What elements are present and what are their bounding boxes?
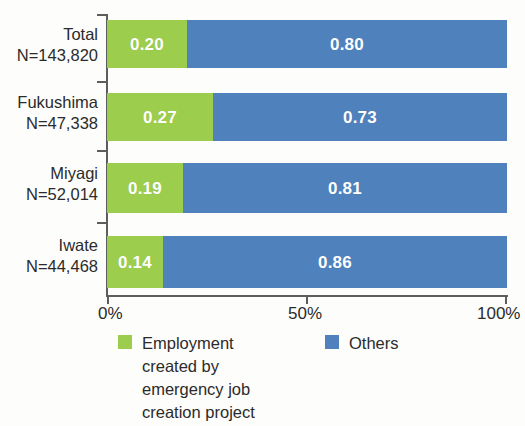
y-axis-category-label-1: Fukushima N=47,338 — [0, 92, 98, 134]
category-name: Total — [0, 24, 98, 45]
category-name: Fukushima — [0, 92, 98, 113]
legend-swatch-green-icon — [118, 335, 132, 349]
bar-value-label: 0.80 — [330, 36, 364, 53]
x-axis-tick — [306, 295, 308, 304]
category-name: Miyagi — [0, 163, 98, 184]
x-axis-tick-label-100: 100% — [477, 304, 520, 324]
legend-label-others: Others — [349, 332, 399, 355]
legend-label-line: created by — [142, 355, 255, 378]
y-axis-tick — [97, 81, 108, 83]
x-axis-tick-label-0: 0% — [98, 304, 123, 324]
bar-row-miyagi: 0.19 0.81 — [107, 163, 507, 213]
y-axis-category-label-3: Iwate N=44,468 — [0, 235, 98, 277]
bar-value-label: 0.73 — [343, 109, 377, 126]
bar-value-label: 0.19 — [128, 180, 162, 197]
legend-swatch-blue-icon — [325, 335, 339, 349]
bar-segment-employment: 0.19 — [107, 163, 183, 213]
bar-segment-others: 0.80 — [187, 20, 507, 68]
x-axis-tick — [107, 295, 109, 304]
legend-label-line: Employment — [142, 332, 255, 355]
bar-value-label: 0.86 — [318, 254, 352, 271]
legend-item-employment[interactable]: Employment created by emergency job crea… — [118, 332, 255, 424]
legend-item-others[interactable]: Others — [325, 332, 399, 355]
stacked-bar-chart-figure: Total N=143,820 Fukushima N=47,338 Miyag… — [0, 0, 525, 426]
bar-segment-others: 0.86 — [163, 236, 507, 288]
category-count: N=143,820 — [0, 45, 98, 66]
y-axis-tick — [97, 14, 108, 16]
bar-segment-others: 0.73 — [213, 93, 507, 141]
y-axis-category-label-2: Miyagi N=52,014 — [0, 163, 98, 205]
bar-segment-employment: 0.20 — [107, 20, 187, 68]
legend-label-line: Others — [349, 332, 399, 355]
bar-segment-employment: 0.14 — [107, 236, 163, 288]
bar-value-label: 0.81 — [328, 180, 362, 197]
bar-segment-employment: 0.27 — [107, 93, 213, 141]
bar-value-label: 0.20 — [130, 36, 164, 53]
category-count: N=52,014 — [0, 184, 98, 205]
bar-row-fukushima: 0.27 0.73 — [107, 93, 507, 141]
bar-segment-others: 0.81 — [183, 163, 507, 213]
category-count: N=44,468 — [0, 256, 98, 277]
bar-row-iwate: 0.14 0.86 — [107, 236, 507, 288]
legend-label-line: emergency job — [142, 378, 255, 401]
bar-value-label: 0.14 — [118, 254, 152, 271]
y-axis-category-label-0: Total N=143,820 — [0, 24, 98, 66]
category-name: Iwate — [0, 235, 98, 256]
category-count: N=47,338 — [0, 113, 98, 134]
legend-label-line: creation project — [142, 401, 255, 424]
bar-row-total: 0.20 0.80 — [107, 20, 507, 68]
y-axis-tick — [97, 150, 108, 152]
legend-label-employment: Employment created by emergency job crea… — [142, 332, 255, 424]
x-axis-tick-label-50: 50% — [288, 304, 322, 324]
chart-legend: Employment created by emergency job crea… — [0, 330, 525, 426]
y-axis-tick — [97, 222, 108, 224]
x-axis-tick — [505, 295, 507, 304]
bar-value-label: 0.27 — [143, 109, 177, 126]
